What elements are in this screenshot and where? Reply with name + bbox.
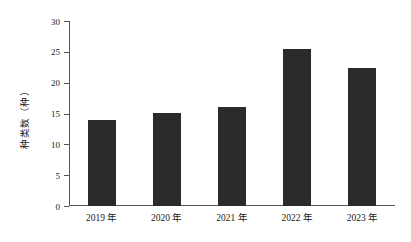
x-axis-tick-labels: 2019 年2020 年2021 年2022 年2023 年: [69, 211, 395, 229]
bar: [88, 120, 116, 206]
x-axis-tick-label: 2020 年: [151, 211, 182, 225]
y-axis-tick-label: 0: [56, 202, 61, 211]
bar: [218, 107, 246, 206]
y-axis-tick-label: 5: [56, 171, 61, 180]
y-axis-tick-label: 15: [51, 110, 60, 119]
bar-slot: [134, 21, 199, 206]
y-axis-tick-label: 25: [51, 48, 60, 57]
bar-slot: [199, 21, 264, 206]
y-axis-tick-label: 30: [51, 17, 60, 26]
bar: [283, 49, 311, 206]
y-axis-label-text: 种类数（种）: [16, 86, 30, 149]
plot-area: 302520151050: [69, 21, 395, 206]
x-axis-tick-label: 2021 年: [216, 211, 247, 225]
x-axis-tick-label: 2023 年: [347, 211, 378, 225]
x-axis-tick-label: 2022 年: [282, 211, 313, 225]
y-axis-label: 种类数（种）: [14, 62, 32, 172]
bar-chart: 种类数（种） 302520151050 2019 年2020 年2021 年20…: [0, 0, 411, 242]
bar-slot: [330, 21, 395, 206]
y-axis-tick-label: 20: [51, 79, 60, 88]
bar-slot: [265, 21, 330, 206]
bar: [348, 68, 376, 206]
y-axis-tick-mark: 0: [64, 206, 69, 207]
y-axis-tick-label: 10: [51, 140, 60, 149]
bar-slot: [69, 21, 134, 206]
bar: [153, 113, 181, 206]
bar-series: [69, 21, 395, 206]
x-axis-tick-label: 2019 年: [86, 211, 117, 225]
